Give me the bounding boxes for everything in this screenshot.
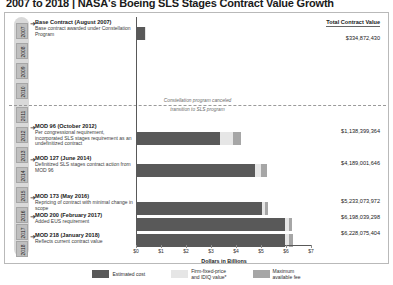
x-axis-tick-label: $1 xyxy=(158,248,164,254)
arrow-icon: ➜ xyxy=(30,125,35,130)
annotation-base-contract: ➜ Base Contract (August 2007) Base contr… xyxy=(35,19,133,37)
bar-segment xyxy=(261,164,267,177)
chart-legend: Estimated cost Firm-fixed-price and IDIQ… xyxy=(0,268,393,280)
year-label: 2009 xyxy=(15,64,31,80)
year-box: 2015 xyxy=(16,187,28,203)
annotation-description: Base contract awarded under Constellatio… xyxy=(35,26,133,38)
bar-segment xyxy=(265,202,268,215)
bar-segment xyxy=(233,132,240,145)
legend-item-max-fee: Maximum available fee xyxy=(253,268,301,280)
annotation-description: Reflects current contract value xyxy=(35,239,133,245)
annotation-description: Definitized SLS stages contract action f… xyxy=(35,162,133,174)
bar-mod-127 xyxy=(137,164,267,177)
x-axis: $0$1$2$3$4$5$6$7 xyxy=(136,245,312,257)
x-axis-tick-label: $7 xyxy=(308,248,314,254)
annotation-description: Per congressional requirement, incorpora… xyxy=(35,130,133,148)
annotation-mod-96: ➜ MOD 96 (October 2012) Per congressiona… xyxy=(35,123,133,147)
year-box: 2009 xyxy=(16,63,28,79)
legend-label: Firm-fixed-price and IDIQ value* xyxy=(191,268,226,280)
year-box: 2007 xyxy=(16,23,28,39)
annotation-mod-218: ➜ MOD 218 (January 2018) Reflects curren… xyxy=(35,232,133,245)
annotation-description: Repricing of contract with minimal chang… xyxy=(35,200,133,212)
annotation-description: Added EUS requirement xyxy=(35,219,133,225)
bar-base-contract xyxy=(137,27,145,40)
legend-label: Maximum available fee xyxy=(273,268,301,280)
bar-segment xyxy=(137,164,255,177)
bar-segment xyxy=(220,132,234,145)
legend-swatch xyxy=(171,270,188,278)
legend-item-estimated-cost: Estimated cost xyxy=(92,268,145,280)
bar-segment xyxy=(137,27,145,40)
annotation-mod-200: ➜ MOD 200 (February 2017) Added EUS requ… xyxy=(35,212,133,225)
legend-swatch xyxy=(253,270,270,278)
year-box: 2018 xyxy=(16,241,28,257)
x-axis-tick-label: $2 xyxy=(183,248,189,254)
total-contract-value: $6,198,039,298 xyxy=(341,214,380,220)
arrow-icon: ➜ xyxy=(30,214,35,219)
year-label: 2015 xyxy=(15,188,31,204)
bar-mod-173 xyxy=(137,202,268,215)
legend-item-ffp-idiq: Firm-fixed-price and IDIQ value* xyxy=(171,268,226,280)
arrow-icon: ➜ xyxy=(30,21,35,26)
total-contract-value-header: Total Contract Value xyxy=(326,19,380,27)
bar-segment xyxy=(137,202,262,215)
total-contract-value: $334,872,430 xyxy=(346,35,380,41)
year-label: 2007 xyxy=(15,24,31,40)
bar-mod-200 xyxy=(137,218,292,231)
x-axis-tick-label: $0 xyxy=(133,248,139,254)
year-box: 2013 xyxy=(16,147,28,163)
legend-swatch xyxy=(92,270,109,278)
bar-segment xyxy=(137,132,220,145)
annotation-mod-173: ➜ MOD 173 (May 2016) Repricing of contra… xyxy=(35,193,133,211)
year-label: 2016 xyxy=(15,208,31,224)
x-axis-title: Dollars in Billions xyxy=(136,258,312,264)
total-contract-value: $1,138,399,364 xyxy=(341,128,380,134)
bar-segment xyxy=(137,218,285,231)
year-rail: 2007 2008 2009 2010 2011 2012 2013 2014 … xyxy=(14,17,29,257)
total-contract-value: $6,228,075,404 xyxy=(341,230,380,236)
legend-label: Estimated cost xyxy=(112,271,145,277)
year-label: 2008 xyxy=(15,44,31,60)
x-axis-tick-label: $3 xyxy=(208,248,214,254)
year-box: 2012 xyxy=(16,127,28,143)
arrow-icon: ➜ xyxy=(30,195,35,200)
bar-mod-96 xyxy=(137,132,241,145)
year-label: 2013 xyxy=(15,148,31,164)
arrow-icon: ➜ xyxy=(30,234,35,239)
year-label: 2012 xyxy=(15,128,31,144)
year-box: 2014 xyxy=(16,167,28,183)
total-contract-value: $4,189,001,646 xyxy=(341,160,380,166)
page-title: 2007 to 2018 | NASA's Boeing SLS Stages … xyxy=(6,0,334,9)
year-label: 2018 xyxy=(15,242,31,258)
x-axis-tick-label: $5 xyxy=(258,248,264,254)
year-box: 2016 xyxy=(16,207,28,223)
bar-segment xyxy=(145,27,146,40)
x-axis-tick-label: $4 xyxy=(233,248,239,254)
x-axis-tick-label: $6 xyxy=(283,248,289,254)
plot-area xyxy=(136,17,311,257)
figure-container: 2007 2008 2009 2010 2011 2012 2013 2014 … xyxy=(4,12,389,264)
annotation-mod-127: ➜ MOD 127 (June 2014) Definitized SLS st… xyxy=(35,155,133,173)
year-label: 2014 xyxy=(15,168,31,184)
arrow-icon: ➜ xyxy=(30,157,35,162)
year-box: 2017 xyxy=(16,224,28,240)
year-box: 2008 xyxy=(16,43,28,59)
total-contract-value: $5,233,073,972 xyxy=(341,198,380,204)
year-box: 2010 xyxy=(16,83,28,99)
bar-segment xyxy=(289,218,293,231)
year-label: 2017 xyxy=(15,225,31,241)
